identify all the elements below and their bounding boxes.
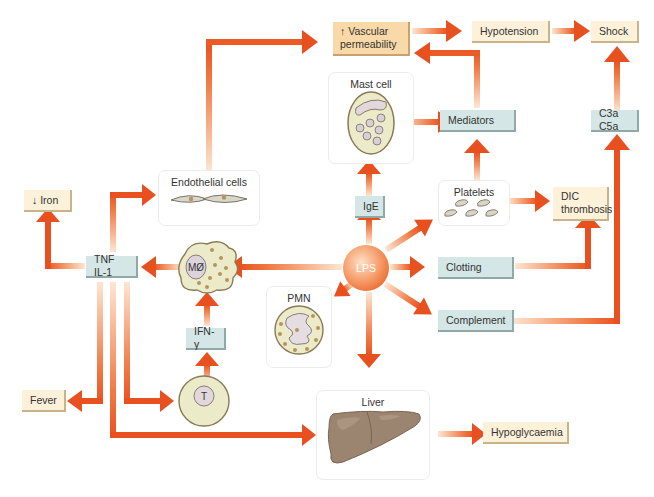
mast-cell-icon	[346, 90, 396, 156]
liver-icon	[323, 408, 423, 468]
c3a-c5a-node: C3a C5a	[591, 110, 639, 132]
iron-label: ↓ Iron	[32, 194, 58, 207]
platelets-panel: Platelets	[438, 180, 510, 226]
svg-text:MØ: MØ	[188, 262, 204, 273]
clotting-label: Clotting	[446, 261, 482, 274]
tnf-il1-node: TNF IL-1	[86, 256, 138, 278]
clotting-node: Clotting	[438, 257, 514, 279]
vascular-permeability-label-line2: permeability	[340, 38, 397, 51]
ige-label: IgE	[363, 200, 379, 213]
hypoglycaemia-label: Hypoglycaemia	[491, 426, 563, 439]
hypotension-label: Hypotension	[480, 25, 538, 38]
endothelial-cells-icon	[169, 188, 249, 210]
complement-node: Complement	[438, 310, 514, 332]
ifn-gamma-node: IFN-γ	[186, 328, 226, 350]
mast-cell-label: Mast cell	[329, 78, 413, 90]
ifn-gamma-label: IFN-γ	[194, 325, 216, 351]
liver-panel: Liver	[316, 390, 430, 480]
c3a-c5a-label: C3a C5a	[599, 107, 629, 133]
macrophage-cell: MØ	[177, 238, 241, 300]
hypotension-node: Hypotension	[472, 21, 550, 43]
liver-label: Liver	[317, 396, 429, 408]
lps-label: LPS	[356, 262, 376, 274]
shock-node: Shock	[591, 21, 639, 43]
iron-node: ↓ Iron	[24, 190, 72, 212]
dic-label-line2: thrombosis	[561, 203, 612, 216]
hypoglycaemia-node: Hypoglycaemia	[483, 422, 569, 444]
svg-text:T: T	[201, 391, 207, 402]
fever-node: Fever	[22, 390, 66, 412]
pmn-icon	[273, 304, 325, 356]
endothelial-cells-label: Endothelial cells	[159, 176, 259, 188]
platelets-icon	[444, 198, 504, 220]
shock-label: Shock	[599, 25, 628, 38]
t-cell-icon: T	[176, 374, 232, 428]
pmn-panel: PMN	[266, 286, 332, 368]
vascular-permeability-node: ↑ Vascular permeability	[333, 22, 410, 56]
lps-node: LPS	[343, 245, 389, 291]
mast-cell-panel: Mast cell	[328, 72, 414, 164]
complement-label: Complement	[446, 314, 506, 327]
mediators-node: Mediators	[440, 110, 516, 132]
platelets-label: Platelets	[439, 186, 509, 198]
dic-label-line1: DIC	[561, 190, 612, 203]
t-cell: T	[176, 374, 232, 432]
pmn-label: PMN	[267, 292, 331, 304]
ige-node: IgE	[355, 196, 385, 218]
tnf-il1-label: TNF IL-1	[94, 253, 128, 279]
vascular-permeability-label-line1: ↑ Vascular	[340, 25, 397, 38]
fever-label: Fever	[30, 394, 57, 407]
macrophage-icon: MØ	[177, 238, 241, 296]
dic-thrombosis-node: DIC thrombosis	[553, 187, 609, 221]
mediators-label: Mediators	[448, 114, 494, 127]
endothelial-cells-panel: Endothelial cells	[158, 170, 260, 226]
